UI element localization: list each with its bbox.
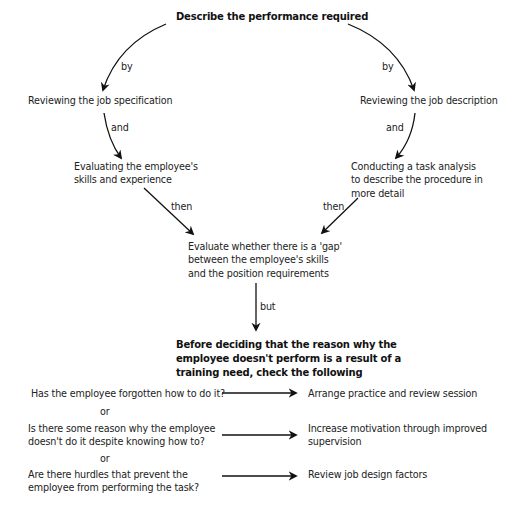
- gap-evaluation: Evaluate whether there is a 'gap' betwee…: [188, 240, 342, 280]
- right-by-label: by: [382, 60, 393, 73]
- arrow-title-to-right: [348, 24, 414, 90]
- right-then-label: then: [323, 200, 344, 213]
- left-and-label: and: [111, 121, 129, 134]
- or-label-1: or: [100, 405, 110, 418]
- but-label: but: [260, 300, 275, 313]
- or-label-2: or: [100, 452, 110, 465]
- action-2: Increase motivation through improved sup…: [308, 422, 487, 449]
- question-1: Has the employee forgotten how to do it?: [31, 387, 225, 400]
- left-step-1: Reviewing the job specification: [28, 94, 172, 107]
- right-step-2: Conducting a task analysis to describe t…: [351, 160, 483, 200]
- left-step-2: Evaluating the employee's skills and exp…: [74, 160, 198, 187]
- action-1: Arrange practice and review session: [308, 387, 477, 400]
- left-then-label: then: [171, 200, 192, 213]
- right-step-1: Reviewing the job description: [360, 94, 498, 107]
- arrow-title-to-left: [103, 24, 166, 90]
- question-3: Are there hurdles that prevent the emplo…: [28, 468, 199, 495]
- left-by-label: by: [121, 60, 132, 73]
- title: Describe the performance required: [176, 10, 368, 24]
- arrow-left-and: [104, 113, 121, 158]
- check-heading: Before deciding that the reason why the …: [176, 338, 401, 380]
- question-2: Is there some reason why the employee do…: [28, 422, 215, 449]
- right-and-label: and: [386, 121, 404, 134]
- action-3: Review job design factors: [308, 468, 427, 481]
- arrow-right-and: [396, 113, 415, 158]
